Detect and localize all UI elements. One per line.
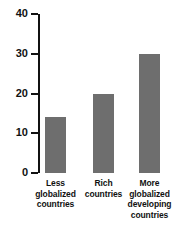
x-axis-label-line: countries — [78, 189, 130, 200]
bar-chart: 403020100 LessglobalizedcountriesRichcou… — [0, 0, 178, 231]
x-axis-label-line: countries — [30, 199, 82, 210]
x-axis-label-more-globalized-developing-countries: Moreglobalizeddevelopingcountries — [124, 178, 176, 220]
x-axis-label-line: Less — [30, 178, 82, 189]
x-axis-label-line: globalized — [124, 189, 176, 200]
x-axis-label-line: countries — [124, 210, 176, 221]
x-axis-label-line: globalized — [30, 189, 82, 200]
bars-layer — [0, 14, 178, 173]
x-axis-label-less-globalized-countries: Lessglobalizedcountries — [30, 178, 82, 210]
bar-more-globalized-developing-countries — [139, 54, 160, 173]
x-axis-label-line: Rich — [78, 178, 130, 189]
bar-rich-countries — [93, 94, 114, 174]
plot-area: 403020100 LessglobalizedcountriesRichcou… — [0, 0, 178, 231]
bar-less-globalized-countries — [45, 117, 66, 173]
x-axis-label-rich-countries: Richcountries — [78, 178, 130, 199]
x-axis-label-line: developing — [124, 199, 176, 210]
x-axis-label-line: More — [124, 178, 176, 189]
